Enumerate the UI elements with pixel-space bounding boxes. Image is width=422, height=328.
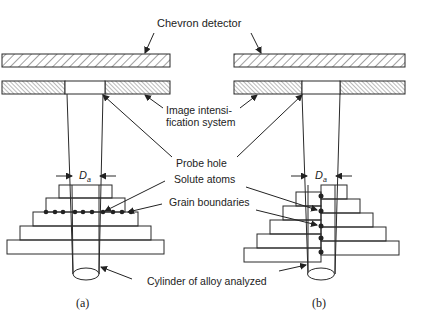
- probe-hole-label: Probe hole: [176, 157, 227, 169]
- cylinder-a: [73, 268, 99, 280]
- image-intensifier-b-right: [340, 81, 405, 94]
- image-intensification-label-2: fication system: [166, 116, 235, 128]
- probe-hole-b: [302, 81, 340, 94]
- image-intensification-label-1: Image intensi-: [166, 104, 232, 116]
- grain-boundaries-label: Grain boundaries: [169, 196, 250, 208]
- image-intensifier-a-left: [2, 81, 65, 94]
- cylinder-b: [308, 268, 335, 280]
- caption-b: (b): [312, 296, 326, 311]
- probe-hole-a: [65, 81, 105, 94]
- image-intensifier-b-left: [234, 81, 302, 94]
- panel-a: [2, 54, 170, 280]
- cylinder-label: Cylinder of alloy analyzed: [147, 275, 267, 287]
- chevron-detector-a: [2, 54, 170, 67]
- caption-a: (a): [76, 296, 89, 311]
- da-label-b: Da: [315, 169, 327, 183]
- leader-arrows: [101, 33, 317, 279]
- chevron-detector-label: Chevron detector: [157, 17, 241, 29]
- panel-b: [234, 54, 405, 280]
- da-label-a: Da: [79, 169, 91, 183]
- chevron-detector-b: [234, 54, 405, 67]
- image-intensifier-a-right: [105, 81, 170, 94]
- solute-atoms-label: Solute atoms: [174, 173, 235, 185]
